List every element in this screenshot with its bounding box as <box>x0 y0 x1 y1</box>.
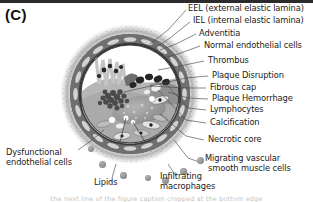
label-adventitia: Adventitia <box>199 29 240 38</box>
label-dysfunctional-line1: Dysfunctional <box>6 147 62 157</box>
label-normal-endothelial-cells: Normal endothelial cells <box>204 41 302 50</box>
label-thrombus: Thrombus <box>208 56 249 65</box>
label-infiltrating-line2: macrophages <box>160 181 215 191</box>
label-infiltrating-line1: Infiltrating <box>160 171 202 181</box>
label-iel: IEL (internal elastic lamina) <box>193 16 304 25</box>
label-lymphocytes: Lymphocytes <box>210 105 264 114</box>
cropped-caption-bleed: the next line of the figure caption crop… <box>0 195 313 202</box>
label-migrating-vsmc: Migrating vascular smooth muscle cells <box>205 154 311 173</box>
macrophage-dot <box>120 172 127 179</box>
label-lipids: Lipids <box>94 178 118 187</box>
figure-panel-c: (C) <box>0 0 313 202</box>
label-eel: EEL (external elastic lamina) <box>188 4 304 13</box>
label-plaque-disruption: Plaque Disruption <box>212 71 284 80</box>
label-migrating-vsmc-line1: Migrating vascular <box>205 153 280 163</box>
label-dysfunctional-line2: endothelial cells <box>6 157 72 167</box>
macrophage-dot <box>197 157 204 164</box>
label-necrotic-core: Necrotic core <box>208 135 262 144</box>
label-calcification: Calcification <box>210 118 260 127</box>
macrophage-dot <box>145 175 151 181</box>
label-fibrous-cap: Fibrous cap <box>210 83 256 92</box>
leader-lipids <box>112 164 116 178</box>
label-infiltrating-macrophages: Infiltrating macrophages <box>160 172 240 191</box>
label-plaque-hemorrhage: Plaque Hemorrhage <box>212 94 293 103</box>
label-dysfunctional-endothelial-cells: Dysfunctional endothelial cells <box>6 148 102 168</box>
